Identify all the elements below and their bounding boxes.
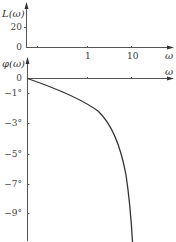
magnitude-y-tick-0: 0: [0, 43, 22, 52]
magnitude-y-label: L(ω): [2, 9, 25, 19]
phase-x-label: ω: [165, 67, 173, 77]
magnitude-x-label: ω: [165, 51, 173, 61]
phase-y-label: φ(ω): [2, 59, 25, 69]
magnitude-axes: [24, 4, 171, 48]
x-tick-10: 10: [127, 51, 138, 61]
phase-y-tick-minus9: −9°: [0, 209, 22, 218]
magnitude-y-tick-20: 20: [0, 23, 22, 32]
phase-x-arrow-icon: [167, 77, 174, 81]
phase-y-tick-minus3: −3°: [0, 119, 22, 128]
phase-y-arrow-icon: [26, 57, 30, 64]
phase-y-tick-minus7: −7°: [0, 180, 22, 189]
phase-y-tick-0: 0: [0, 74, 22, 83]
x-tick-1: 1: [85, 51, 91, 61]
phase-y-tick-minus5: −5°: [0, 150, 22, 159]
bode-plot-svg: [0, 0, 176, 242]
magnitude-x-arrow-icon: [167, 46, 174, 50]
phase-y-tick-minus1: −1°: [0, 89, 22, 98]
phase-axes: [28, 60, 172, 241]
phase-curve: [28, 79, 133, 242]
magnitude-y-arrow-icon: [25, 2, 29, 9]
